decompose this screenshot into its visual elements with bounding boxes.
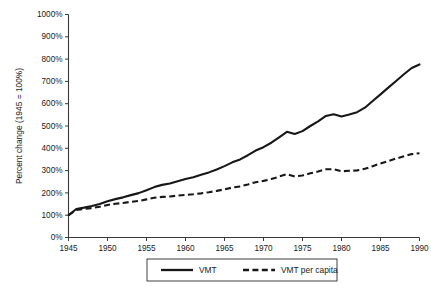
series-lines [69, 64, 420, 215]
legend-label: VMT [199, 265, 217, 275]
chart-legend: VMTVMT per capita [147, 259, 338, 281]
x-tick-label: 1975 [293, 244, 312, 253]
x-tick-label: 1960 [176, 244, 195, 253]
y-tick-label: 0% [51, 233, 63, 242]
y-tick-label: 900% [42, 32, 63, 41]
y-tick-label: 400% [42, 144, 63, 153]
y-tick-label: 1000% [37, 10, 63, 19]
x-tick-label: 1965 [215, 244, 234, 253]
x-tick-label: 1950 [98, 244, 117, 253]
x-tick-label: 1970 [254, 244, 273, 253]
x-tick-label: 1990 [410, 244, 429, 253]
x-tick-label: 1955 [137, 244, 156, 253]
y-tick-label: 300% [42, 166, 63, 175]
x-axis-ticks: 1945195019551960196519701975198019851990 [59, 238, 429, 254]
y-tick-label: 700% [42, 77, 63, 86]
series-line-vmt [69, 64, 420, 215]
y-tick-label: 200% [42, 189, 63, 198]
x-tick-label: 1980 [332, 244, 351, 253]
y-tick-label: 600% [42, 99, 63, 108]
y-tick-label: 100% [42, 211, 63, 220]
x-tick-label: 1945 [59, 244, 78, 253]
chart-container: 0%100%200%300%400%500%600%700%800%900%10… [0, 0, 431, 290]
x-tick-label: 1985 [371, 244, 390, 253]
y-tick-label: 500% [42, 122, 63, 131]
vmt-line-chart: 0%100%200%300%400%500%600%700%800%900%10… [0, 0, 431, 290]
legend-label: VMT per capita [281, 265, 338, 275]
y-axis-ticks: 0%100%200%300%400%500%600%700%800%900%10… [37, 10, 69, 242]
series-line-vmt-per-capita [69, 153, 420, 215]
y-axis-title: Percent change (1945 = 100%) [14, 68, 24, 184]
y-tick-label: 800% [42, 55, 63, 64]
